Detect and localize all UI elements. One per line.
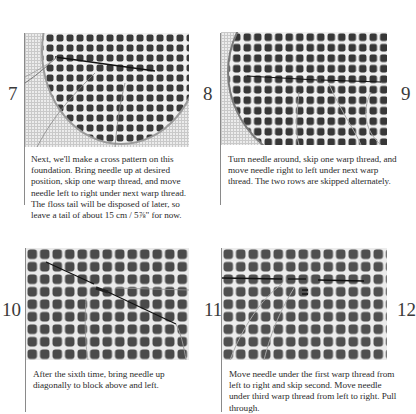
step-number-8: 8 xyxy=(203,84,213,103)
step-10-photo xyxy=(26,248,189,360)
step-11-photo xyxy=(222,248,387,360)
step-7-caption: Next, we'll make a cross pattern on this… xyxy=(31,154,201,221)
step-11-caption: Move needle under the first warp thread … xyxy=(229,369,401,414)
step-number-12: 12 xyxy=(397,300,416,319)
step-number-10: 10 xyxy=(2,300,21,319)
step-10-caption: After the sixth time, bring needle up di… xyxy=(33,369,203,391)
step-7-photo xyxy=(25,33,189,147)
step-number-7: 7 xyxy=(8,84,18,103)
step-number-9: 9 xyxy=(401,84,411,103)
step-8-photo xyxy=(221,32,387,145)
step-number-11: 11 xyxy=(204,300,222,319)
step-8-caption: Turn needle around, skip one warp thread… xyxy=(228,154,400,188)
